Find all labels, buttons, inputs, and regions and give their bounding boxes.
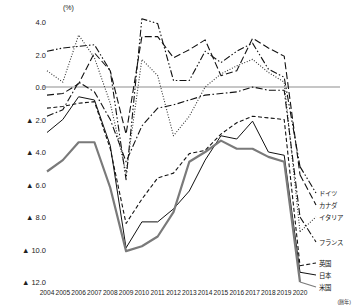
legend-item-2[interactable]: イタリア xyxy=(319,213,343,222)
chart-container: (%) 4.02.00.0▲ 2.0▲ 4.0▲ 6.0▲ 8.0▲ 10.0▲… xyxy=(0,0,352,305)
x-axis-tick-label: 2015 xyxy=(214,289,229,296)
x-axis-tick-label: 2010 xyxy=(135,289,150,296)
x-axis-tick-label: 2020 xyxy=(293,289,308,296)
x-axis-tick-label: 2006 xyxy=(71,289,86,296)
x-axis-tick-label: 2004 xyxy=(40,289,55,296)
x-axis-tick-label: 2011 xyxy=(151,289,165,296)
series-line xyxy=(47,19,300,180)
x-axis-tick-label: 2016 xyxy=(229,289,244,296)
x-axis-tick-label: 2013 xyxy=(182,289,197,296)
legend-leader-line xyxy=(300,272,316,275)
x-axis-labels: 2004200520062007200820092010201120122013… xyxy=(0,289,352,303)
legend-item-4[interactable]: 英国 xyxy=(319,259,331,268)
plot-area xyxy=(0,0,352,305)
x-axis-tick-label: 2012 xyxy=(166,289,181,296)
x-axis-tick-label: 2009 xyxy=(119,289,134,296)
series-line xyxy=(47,97,300,273)
x-axis-unit-note: (暦年) xyxy=(338,298,351,305)
x-axis-tick-label: 2014 xyxy=(198,289,213,296)
x-axis-tick-label: 2005 xyxy=(55,289,70,296)
series-line xyxy=(47,102,300,266)
legend-item-6[interactable]: 米国 xyxy=(319,283,331,292)
x-axis-tick-label: 2017 xyxy=(245,289,260,296)
series-line xyxy=(47,141,300,282)
x-axis-tick-label: 2018 xyxy=(261,289,276,296)
legend-item-5[interactable]: 日本 xyxy=(319,271,331,280)
x-axis-tick-label: 2007 xyxy=(87,289,102,296)
x-axis-tick-label: 2019 xyxy=(277,289,292,296)
legend-item-1[interactable]: カナダ xyxy=(319,201,337,210)
legend-leader-line xyxy=(300,263,316,266)
series-line xyxy=(47,35,300,232)
legend-item-0[interactable]: ドイツ xyxy=(319,189,337,198)
legend-leader-line xyxy=(300,282,316,287)
legend-item-3[interactable]: フランス xyxy=(319,238,343,247)
x-axis-tick-label: 2008 xyxy=(103,289,118,296)
